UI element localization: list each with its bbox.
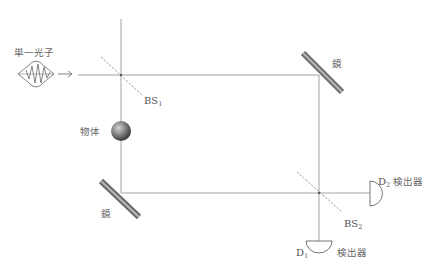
bs2-label: BS2 xyxy=(344,218,362,231)
beam-splitter-2: BS2 xyxy=(297,172,362,231)
detector-d1-caption: 検出器 xyxy=(337,247,367,258)
detector-d2-label: D2検出器 xyxy=(378,176,423,189)
mirror-bottom-left: 鏡 xyxy=(101,181,139,219)
mirror-top-right: 鏡 xyxy=(303,53,342,92)
interferometer-diagram: 単一光子 BS1 物体 鏡 鏡 xyxy=(0,0,439,269)
bs1-dashed-line xyxy=(101,57,143,96)
wave-packet-icon xyxy=(18,61,54,87)
object: 物体 xyxy=(80,121,131,141)
beam-splitter-1: BS1 xyxy=(101,57,162,108)
object-label: 物体 xyxy=(80,126,100,137)
single-photon-source: 単一光子 xyxy=(14,47,72,87)
mirror-bottom-left-label: 鏡 xyxy=(101,208,111,219)
detector-d1-icon xyxy=(306,241,332,253)
detector-d1-label: D1 xyxy=(296,247,308,260)
detector-d1: D1 検出器 xyxy=(296,241,367,260)
mirror-top-right-label: 鏡 xyxy=(332,58,342,69)
arrow-right-icon xyxy=(58,71,72,77)
photon-label: 単一光子 xyxy=(14,47,54,58)
bs1-label: BS1 xyxy=(144,95,162,108)
sphere-icon xyxy=(111,121,131,141)
detector-d2: D2検出器 xyxy=(370,176,423,206)
